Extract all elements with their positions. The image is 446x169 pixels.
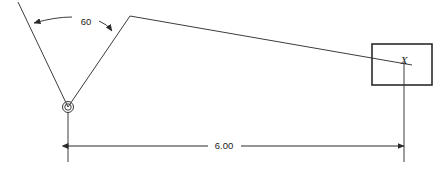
- technical-drawing-canvas: 60 X 6.00: [0, 0, 446, 169]
- line-peak-to-target-point: [130, 16, 412, 65]
- angle-arc-right-segment: [99, 21, 112, 31]
- dimension-value-label: 6.00: [215, 140, 234, 151]
- angle-arc-left-segment: [34, 17, 72, 23]
- geometry-diagram: 60 X 6.00: [0, 0, 446, 169]
- angle-value-label: 60: [81, 16, 92, 27]
- ray-vertex-to-peak-line: [68, 16, 130, 107]
